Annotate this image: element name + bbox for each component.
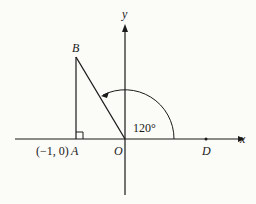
y-axis-arrow-icon <box>122 24 128 32</box>
point-b-label: B <box>72 42 79 54</box>
point-d-label: D <box>202 145 211 157</box>
angle-label: 120° <box>133 122 156 134</box>
point-o-label: O <box>114 145 123 157</box>
point-d <box>205 138 208 141</box>
right-angle-marker <box>76 132 83 139</box>
point-a-label: A <box>71 145 78 157</box>
x-axis-label: x <box>240 133 245 145</box>
y-axis-label: y <box>122 8 127 20</box>
arc-arrow-icon <box>101 92 109 98</box>
segment-ob <box>76 57 125 139</box>
point-a-coord-label: (−1, 0) <box>36 145 69 157</box>
coordinate-diagram <box>0 0 256 204</box>
